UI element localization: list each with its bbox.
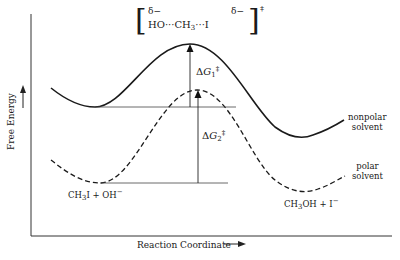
products-ch: CH <box>284 199 298 209</box>
transition-state-dagger: ‡ <box>260 4 264 13</box>
delta-g1-arrow-icon <box>187 44 194 52</box>
products-label: CH3OH + I− <box>284 196 339 213</box>
y-axis-label: Free Energy <box>6 93 16 150</box>
y-axis-arrow-icon <box>20 85 26 93</box>
transition-state-label: [ δ− δ− HO···CH3···I ] ‡ <box>135 4 285 40</box>
ts-dots-2: ··· <box>195 19 205 30</box>
polar-label-line1: polar <box>352 161 383 171</box>
reactants-label: CH3I + OH− <box>68 187 123 204</box>
nonpolar-label-line1: nonpolar <box>348 112 386 122</box>
delta-g2-sup: ‡ <box>222 129 226 137</box>
partial-charge-ho: δ− <box>148 6 161 16</box>
products-sup: − <box>333 197 339 205</box>
ts-i: I <box>205 19 209 30</box>
reactants-rest: I + OH <box>86 190 116 200</box>
partial-charge-i: δ− <box>231 6 244 16</box>
ts-ch: CH <box>174 19 190 30</box>
reactants-ch: CH <box>68 190 82 200</box>
delta-g1-label: ΔG1‡ <box>196 64 219 81</box>
transition-state-formula: HO···CH3···I <box>148 19 209 32</box>
delta-g2-arrow-icon <box>195 90 202 98</box>
x-axis-label: Reaction Coordinate <box>137 240 231 250</box>
ts-ho: HO <box>148 19 165 30</box>
nonpolar-label-line2: solvent <box>348 122 386 132</box>
polar-solvent-label: polar solvent <box>352 161 383 181</box>
reactants-sup: − <box>117 188 123 196</box>
right-bracket: ] <box>248 5 260 35</box>
polar-label-line2: solvent <box>352 171 383 181</box>
delta-g2-label: ΔG2‡ <box>202 128 225 145</box>
products-rest: OH + I <box>302 199 332 209</box>
delta-g1-sup: ‡ <box>216 65 220 73</box>
x-axis-arrow-icon <box>238 241 246 247</box>
nonpolar-solvent-label: nonpolar solvent <box>348 112 386 132</box>
left-bracket: [ <box>135 5 147 35</box>
